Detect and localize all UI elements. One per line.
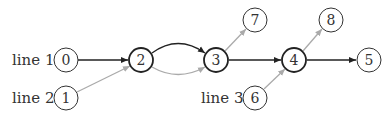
edge-2-3-upper [152,44,205,54]
svg-text:1: 1 [62,90,71,106]
edge-4-8 [303,29,322,51]
line-label-1: line 1 [12,51,54,69]
svg-text:4: 4 [290,52,299,68]
edge-6-4 [264,69,285,89]
svg-text:3: 3 [212,52,221,68]
svg-text:6: 6 [251,90,260,106]
node-6: 6 [243,86,267,110]
diagram: line 1 line 2 line 3 0 1 2 3 4 5 6 7 8 [0,0,392,119]
svg-text:2: 2 [137,52,146,68]
node-3: 3 [204,48,228,72]
line-label-2: line 2 [12,89,54,107]
svg-text:7: 7 [251,12,260,28]
node-5: 5 [357,48,381,72]
node-8: 8 [319,8,343,32]
line-label-3: line 3 [201,89,243,107]
node-1: 1 [54,86,78,110]
svg-text:0: 0 [62,52,71,68]
edge-1-2 [77,66,130,92]
node-7: 7 [243,8,267,32]
node-2: 2 [129,48,153,72]
svg-text:5: 5 [365,52,374,68]
svg-text:8: 8 [327,12,336,28]
node-4: 4 [282,48,306,72]
node-0: 0 [54,48,78,72]
edge-3-7 [225,29,246,51]
edge-2-3-lower [152,67,205,75]
